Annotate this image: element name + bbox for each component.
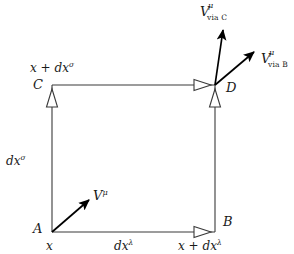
edge-label-left-prefix: d [6,154,14,168]
coord-label-c: x + dxσ [30,62,74,74]
coord-label-c-prefix: x + d [30,61,62,75]
vector-label-v-via-c-sub: via C [207,14,227,22]
parallel-transport-diagram: A B C D x x + dxλ x + dxσ dxλ dxσ Vμ Vμv… [0,0,294,254]
vector-label-v-via-b: Vμvia B [261,52,270,65]
arrowhead-bd-open-triangle [210,89,221,107]
coord-label-b-sup: λ [217,238,222,247]
coord-label-c-sup: σ [69,60,74,69]
vector-label-v-at-a-sup: μ [102,188,107,197]
edge-label-left-sup: σ [20,153,25,162]
arrowhead-ac-open-triangle [47,89,58,107]
vertex-label-b: B [223,215,233,228]
arrowhead-cd-open-triangle [194,80,211,91]
coord-label-b: x + dxλ [178,240,222,252]
vector-v-via-c-arrow [215,30,223,85]
vector-arrows [52,30,254,232]
vector-label-v-via-c: Vμvia C [200,5,209,18]
vector-label-v-via-b-sup: μ [269,49,274,57]
vector-label-v-via-c-sup: μ [208,2,213,10]
edge-label-left-dx-sigma: dxσ [6,155,26,167]
coord-label-b-prefix: x + d [178,239,210,253]
coord-label-a: x [46,240,53,252]
edge-label-bottom-sup: λ [128,238,133,247]
vertex-label-d: D [226,81,236,94]
vector-label-v-at-a-base: V [93,188,102,203]
edge-label-bottom-dx-lambda: dxλ [114,240,133,252]
vector-label-v-via-b-sub: via B [268,61,288,69]
vertex-label-a: A [33,222,42,235]
vertex-label-c: C [33,78,43,91]
coord-label-c-base: x [62,61,69,75]
edge-label-bottom-prefix: d [114,239,122,253]
vector-v-at-a-arrow [52,200,89,232]
diagram-canvas [0,0,294,254]
vector-label-v-at-a: Vμ [93,189,108,202]
arrowhead-ab-open-triangle [194,227,211,238]
coord-label-b-base: x [210,239,217,253]
